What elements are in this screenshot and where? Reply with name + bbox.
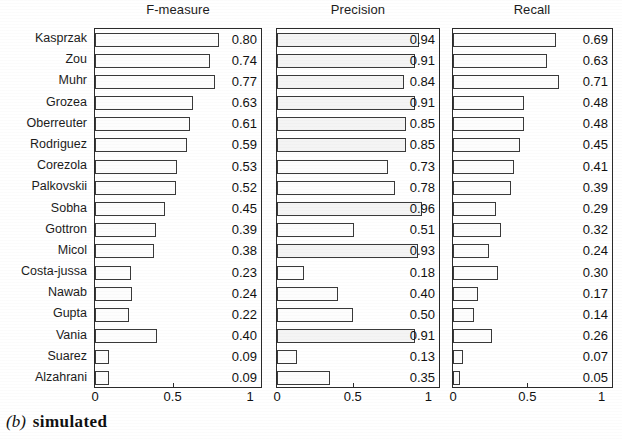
panel-title-precision: Precision [268, 2, 448, 17]
x-tick-label: 0 [273, 390, 280, 404]
bar [277, 266, 304, 280]
bar [95, 96, 193, 110]
bar [95, 350, 109, 364]
bar-value-label: 0.09 [232, 371, 257, 384]
bar [277, 33, 419, 47]
category-label: Micol [0, 244, 90, 256]
bar-value-label: 0.96 [410, 202, 435, 215]
bar-value-label: 0.14 [583, 308, 608, 321]
bar [95, 329, 157, 343]
figure-simulated-results: F-measure Precision Recall KasprzakZouMu… [0, 0, 622, 441]
bar-value-label: 0.05 [583, 371, 608, 384]
bar [277, 308, 353, 322]
bar-value-label: 0.29 [583, 202, 608, 215]
bar-value-label: 0.13 [410, 350, 435, 363]
category-label: Sobha [0, 202, 90, 214]
category-label: Gottron [0, 223, 90, 235]
plot-area-precision: 0.940.910.840.910.850.850.730.780.960.51… [277, 29, 439, 387]
bar [95, 371, 109, 385]
bar [453, 287, 478, 301]
category-label: Rodriguez [0, 138, 90, 150]
bar-value-label: 0.91 [410, 329, 435, 342]
bar-value-label: 0.91 [410, 54, 435, 67]
figure-caption: (b)simulated [6, 412, 107, 432]
bar-value-label: 0.71 [583, 75, 608, 88]
panel-title-f-measure: F-measure [88, 2, 268, 17]
bar [453, 329, 492, 343]
bar-value-label: 0.85 [410, 117, 435, 130]
bar [95, 117, 190, 131]
bar [95, 202, 165, 216]
bar-value-label: 0.07 [583, 350, 608, 363]
category-label-column: KasprzakZouMuhrGrozeaOberreuterRodriguez… [0, 28, 90, 388]
bar-value-label: 0.35 [410, 371, 435, 384]
x-tick-label: 0.5 [164, 390, 182, 404]
bar-value-label: 0.61 [232, 117, 257, 130]
category-label: Alzahrani [0, 371, 90, 383]
bar [95, 54, 210, 68]
bar-value-label: 0.39 [232, 223, 257, 236]
bar-value-label: 0.38 [232, 244, 257, 257]
bar [95, 33, 219, 47]
bar [453, 160, 514, 174]
category-label: Zou [0, 53, 90, 65]
x-tick-label: 1 [598, 390, 605, 404]
bar [277, 329, 415, 343]
bar-value-label: 0.52 [232, 181, 257, 194]
bar [95, 223, 156, 237]
category-label: Kasprzak [0, 32, 90, 44]
panel-title-recall: Recall [442, 2, 622, 17]
bar-value-label: 0.93 [410, 244, 435, 257]
bar-value-label: 0.48 [583, 96, 608, 109]
bar-value-label: 0.48 [583, 117, 608, 130]
bar-value-label: 0.74 [232, 54, 257, 67]
category-label: Costa-jussa [0, 265, 90, 277]
bar-value-label: 0.24 [583, 244, 608, 257]
bar-value-label: 0.51 [410, 223, 435, 236]
bar [277, 287, 338, 301]
bar [453, 117, 524, 131]
bar [95, 266, 131, 280]
bar [453, 350, 463, 364]
bar-value-label: 0.26 [583, 329, 608, 342]
bar-value-label: 0.09 [232, 350, 257, 363]
bar [277, 75, 404, 89]
bar-value-label: 0.85 [410, 138, 435, 151]
x-axis-tick-mark [173, 383, 174, 388]
bar [277, 181, 395, 195]
bar [277, 350, 297, 364]
bar-value-label: 0.40 [232, 329, 257, 342]
bar-value-label: 0.24 [232, 287, 257, 300]
caption-letter: (b) [6, 412, 26, 431]
bar [95, 75, 215, 89]
bar-value-label: 0.78 [410, 181, 435, 194]
bar-value-label: 0.77 [232, 75, 257, 88]
bar [453, 244, 489, 258]
bar-value-label: 0.45 [232, 202, 257, 215]
x-tick-label: 1 [247, 390, 254, 404]
bar-value-label: 0.73 [410, 160, 435, 173]
bar-value-label: 0.84 [410, 75, 435, 88]
bar-value-label: 0.40 [410, 287, 435, 300]
bar-value-label: 0.17 [583, 287, 608, 300]
panel-recall: 0.690.630.710.480.480.450.410.390.290.32… [452, 28, 613, 388]
bar [95, 287, 132, 301]
bar [277, 244, 418, 258]
category-label: Suarez [0, 350, 90, 362]
bar [95, 181, 176, 195]
panel-f-measure: 0.800.740.770.630.610.590.530.520.450.39… [94, 28, 262, 388]
category-label: Vania [0, 329, 90, 341]
bar [453, 266, 498, 280]
bar [277, 96, 415, 110]
category-label: Corezola [0, 159, 90, 171]
bar [453, 54, 547, 68]
bar-value-label: 0.50 [410, 308, 435, 321]
bar [453, 138, 520, 152]
bar-value-label: 0.69 [583, 33, 608, 46]
bar [453, 33, 556, 47]
category-label: Nawab [0, 286, 90, 298]
category-label: Palkovskii [0, 180, 90, 192]
x-tick-label: 1 [425, 390, 432, 404]
bar-value-label: 0.39 [583, 181, 608, 194]
bar [95, 160, 177, 174]
